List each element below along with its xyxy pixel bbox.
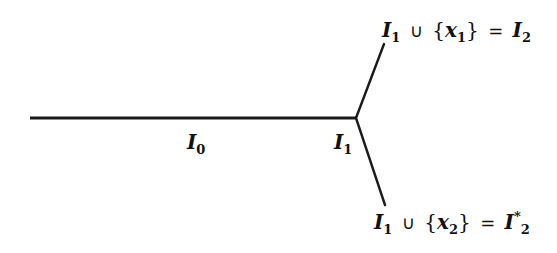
- close-brace: }: [458, 210, 471, 234]
- union-symbol: ∪: [399, 212, 418, 233]
- i0-base: I: [187, 130, 196, 154]
- upper-var-sub: 1: [457, 30, 466, 45]
- lower-var: x: [437, 210, 449, 234]
- open-brace: {: [432, 18, 445, 42]
- equals-symbol: =: [477, 212, 498, 233]
- lower-lhs: I: [374, 210, 383, 234]
- upper-rhs-sub: 2: [522, 30, 531, 45]
- i1-subscript: 1: [343, 142, 352, 157]
- upper-rhs: I: [513, 18, 522, 42]
- upper-branch-edge: [356, 44, 384, 118]
- label-i1: I1: [334, 132, 352, 156]
- close-brace: }: [466, 18, 479, 42]
- i1-base: I: [334, 130, 343, 154]
- upper-lhs: I: [382, 18, 391, 42]
- lower-rhs-sub: 2: [521, 222, 530, 237]
- i0-subscript: 0: [196, 142, 205, 157]
- lower-rhs-star: *: [514, 209, 521, 224]
- open-brace: {: [424, 210, 437, 234]
- upper-var: x: [445, 18, 457, 42]
- lower-branch-edge: [356, 118, 385, 205]
- label-lower-equation: I1 ∪ {x2} = I*2: [374, 210, 530, 236]
- upper-lhs-sub: 1: [391, 30, 400, 45]
- lower-var-sub: 2: [449, 222, 458, 237]
- lower-lhs-sub: 1: [383, 222, 392, 237]
- lower-rhs: I: [505, 210, 514, 234]
- equals-symbol: =: [485, 20, 506, 41]
- union-symbol: ∪: [407, 20, 426, 41]
- label-i0: I0: [187, 132, 205, 156]
- label-upper-equation: I1 ∪ {x1} = I2: [382, 20, 531, 44]
